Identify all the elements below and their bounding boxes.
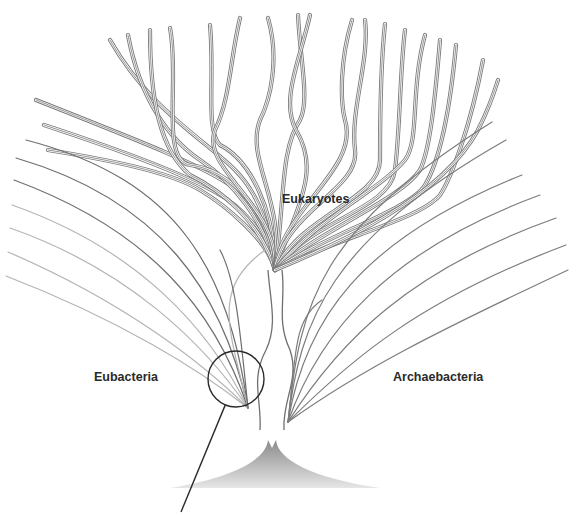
archaebacteria-branch [288, 270, 568, 422]
archaebacteria-branch [288, 245, 566, 422]
tree-canvas [0, 0, 579, 522]
eukaryote-branches [36, 15, 498, 270]
eubacteria-branch [229, 250, 265, 408]
trunk-stem [258, 270, 273, 430]
archaebacteria-branch [288, 175, 522, 422]
label-archaebacteria: Archaebacteria [393, 370, 483, 384]
eubacteria-branch [6, 276, 248, 408]
magnifier-pointer-line [181, 405, 225, 512]
label-eubacteria: Eubacteria [94, 370, 158, 384]
phylogenetic-tree-diagram: Eukaryotes Eubacteria Archaebacteria [0, 0, 579, 522]
trunk-stems [258, 270, 294, 430]
eubacteria-branch [26, 140, 248, 408]
label-eukaryotes: Eukaryotes [282, 192, 349, 206]
